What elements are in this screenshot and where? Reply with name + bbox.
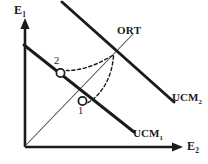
diagram-canvas: E1 E2 UCM1 UCM2 ORT 1 2 [0,0,208,164]
y-axis-label: E1 [14,4,26,16]
ucm1-label-text: UCM [133,127,159,139]
diagram-svg [0,0,208,164]
point-1-label: 1 [78,106,83,117]
ucm1-label-subscript: 1 [160,134,163,141]
y-axis-label-subscript: 1 [22,10,26,19]
horizontal-axis [25,142,183,151]
vertical-axis [20,18,29,147]
x-axis-label: E2 [187,140,199,152]
point-2-label: 2 [54,56,59,67]
ucm2-label: UCM2 [172,92,202,103]
ucm2-label-text: UCM [172,91,198,103]
point-1-marker [78,97,86,105]
ucm1-label: UCM1 [133,128,163,139]
y-axis-label-text: E [14,3,22,17]
ucm2-label-subscript: 2 [199,98,202,105]
x-axis-label-subscript: 2 [195,146,199,155]
ort-label: ORT [117,25,141,36]
point-2-marker [56,69,64,77]
ucm1-line [24,45,134,132]
x-axis-label-text: E [187,139,195,153]
